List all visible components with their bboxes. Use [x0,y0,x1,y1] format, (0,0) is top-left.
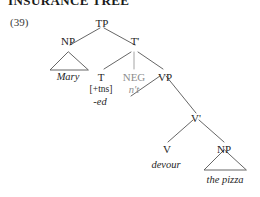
node-vp: VP [158,72,172,83]
tree-branch-lines [0,0,260,197]
example-number: (39) [10,17,28,28]
branch-tbar-vp [138,52,163,69]
node-tbar: T' [131,36,140,47]
branch-vbar-np [199,120,224,142]
node-v: V [163,144,171,155]
branch-tbar-t [104,52,131,69]
node-tp: TP [96,18,109,29]
lexical-object: the pizza [206,175,243,186]
lexical-verb: devour [151,160,180,171]
node-vbar: V' [191,113,201,124]
syntax-tree-figure: INSURANCE TREE (39 [0,0,260,197]
feature-tense: [+tns] [90,85,113,95]
lexical-tense-affix: -ed [93,97,106,108]
lexical-subject: Mary [57,72,80,83]
branch-vbar-v [168,120,193,142]
triangle-np-subject [50,52,88,70]
node-neg: NEG [123,72,146,83]
node-t: T [98,72,105,83]
node-np-subject: NP [61,36,75,47]
lexical-negation: n't [129,85,139,96]
node-np-object: NP [217,144,231,155]
